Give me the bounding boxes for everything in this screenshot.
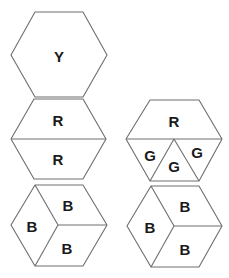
label-b-left: B: [145, 219, 156, 236]
label-g-center: G: [168, 158, 180, 175]
label-r-bottom: R: [53, 151, 64, 168]
label-b-left: B: [27, 218, 38, 235]
hexagon-red-red: R R: [11, 99, 106, 179]
label-g-right: G: [191, 144, 203, 161]
hexagon-blue-cube-left: B B B: [11, 185, 107, 266]
label-g-left: G: [144, 147, 156, 164]
hexagon-blue-cube-right: B B B: [127, 186, 222, 267]
hexagon-diagram: Y R R R G G G B B B B B B: [0, 0, 229, 278]
label-y: Y: [54, 48, 64, 65]
label-r-top: R: [53, 112, 64, 129]
hexagon-red-green: R G G G: [126, 100, 222, 181]
label-b-bottom: B: [180, 241, 191, 258]
hexagon-yellow: Y: [11, 12, 107, 97]
label-b-bottom: B: [62, 240, 73, 257]
label-b-top: B: [180, 198, 191, 215]
label-b-top: B: [63, 197, 74, 214]
label-r: R: [169, 113, 180, 130]
